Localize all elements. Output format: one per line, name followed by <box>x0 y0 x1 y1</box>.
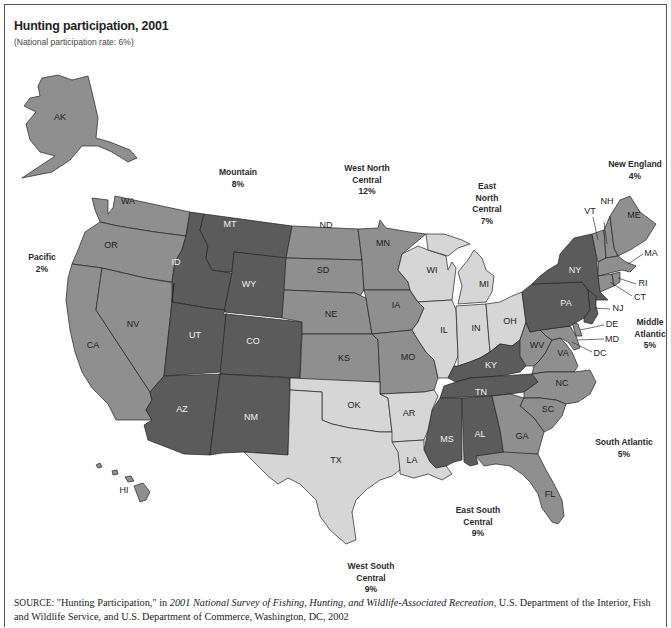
state-CO <box>220 314 302 378</box>
label-ME: ME <box>627 210 641 220</box>
region-name: South Atlantic <box>588 436 660 448</box>
region-rate: 12% <box>336 185 399 197</box>
region-rate: 5% <box>630 339 670 351</box>
region-rate: 9% <box>340 583 403 595</box>
label-WI: WI <box>427 265 438 275</box>
label-KY: KY <box>485 360 497 370</box>
region-name: Central <box>336 174 399 186</box>
state-AK <box>22 75 137 178</box>
source-prefix: SOURCE: <box>14 598 54 608</box>
state-ME <box>610 196 656 256</box>
label-ND: ND <box>320 220 333 230</box>
label-PA: PA <box>560 298 571 308</box>
us-map: AK HI WA OR CA NV ID MT WY UT CO AZ NM N… <box>0 0 671 628</box>
source-publication: 2001 National Survey of Fishing, Hunting… <box>170 597 497 608</box>
region-west-north-central: West North Central 12% <box>336 162 399 197</box>
region-pacific: Pacific 2% <box>22 251 62 274</box>
state-ND <box>286 226 362 260</box>
label-MT: MT <box>224 219 237 229</box>
leader-CT <box>610 282 632 296</box>
source-text: "Hunting Participation," in <box>54 597 170 608</box>
label-FL: FL <box>545 489 556 499</box>
label-NY: NY <box>569 265 582 275</box>
region-rate: 5% <box>588 448 660 460</box>
label-UT: UT <box>189 330 201 340</box>
label-AK: AK <box>54 112 66 122</box>
source-note: SOURCE: "Hunting Participation," in 2001… <box>14 596 659 624</box>
label-OR: OR <box>104 240 118 250</box>
region-name: West South <box>340 560 403 572</box>
region-name: East South <box>447 504 508 516</box>
region-name: Pacific <box>22 251 62 263</box>
region-name: North <box>465 192 510 204</box>
label-IL: IL <box>440 325 448 335</box>
label-DE: DE <box>606 319 619 329</box>
region-name: Mountain <box>213 166 263 178</box>
label-WV: WV <box>530 340 545 350</box>
label-RI: RI <box>639 278 648 288</box>
label-NC: NC <box>556 378 569 388</box>
leader-MD <box>578 339 604 340</box>
label-NH: NH <box>601 196 614 206</box>
label-AL: AL <box>474 429 485 439</box>
label-NM: NM <box>244 412 258 422</box>
label-CA: CA <box>87 340 100 350</box>
region-east-south-central: East South Central 9% <box>447 504 508 539</box>
label-MA: MA <box>644 248 658 258</box>
label-SD: SD <box>317 265 330 275</box>
label-OH: OH <box>503 316 517 326</box>
state-AZ <box>144 374 220 455</box>
label-AR: AR <box>403 408 416 418</box>
label-CO: CO <box>246 336 260 346</box>
leader-RI <box>618 278 636 284</box>
region-south-atlantic: South Atlantic 5% <box>588 436 660 459</box>
label-MS: MS <box>440 434 454 444</box>
label-MD: MD <box>605 334 619 344</box>
leader-DE <box>580 325 604 330</box>
label-HI: HI <box>120 485 129 495</box>
label-LA: LA <box>406 455 417 465</box>
label-NJ: NJ <box>613 303 624 313</box>
label-AZ: AZ <box>176 404 188 414</box>
label-TN: TN <box>475 387 487 397</box>
region-name: Atlantic <box>630 328 670 340</box>
label-NE: NE <box>325 309 338 319</box>
state-PA <box>522 282 590 332</box>
region-rate: 8% <box>213 178 263 190</box>
region-name: New England <box>604 158 667 170</box>
region-rate: 2% <box>22 263 62 275</box>
label-TX: TX <box>330 455 342 465</box>
state-HI <box>96 463 150 502</box>
region-name: Central <box>465 203 510 215</box>
region-name: Middle <box>630 316 670 328</box>
label-ID: ID <box>172 257 182 267</box>
region-name: Central <box>340 572 403 584</box>
region-east-north-central: East North Central 7% <box>465 180 510 226</box>
label-MI: MI <box>479 279 489 289</box>
label-GA: GA <box>515 431 528 441</box>
label-WY: WY <box>242 279 257 289</box>
region-middle-atlantic: Middle Atlantic 5% <box>630 316 670 351</box>
label-VT: VT <box>584 206 596 216</box>
label-MN: MN <box>376 238 390 248</box>
region-name: West North <box>336 162 399 174</box>
label-SC: SC <box>542 404 555 414</box>
label-IN: IN <box>472 323 481 333</box>
leader-MA <box>628 254 643 264</box>
label-IA: IA <box>392 300 401 310</box>
label-MO: MO <box>401 352 416 362</box>
label-OK: OK <box>347 400 360 410</box>
region-name: Central <box>447 516 508 528</box>
region-new-england: New England 4% <box>604 158 667 181</box>
label-VA: VA <box>557 348 568 358</box>
region-rate: 9% <box>447 527 508 539</box>
label-KS: KS <box>338 353 350 363</box>
label-CT: CT <box>634 292 646 302</box>
region-mountain: Mountain 8% <box>213 166 263 189</box>
label-NV: NV <box>127 319 140 329</box>
label-DC: DC <box>594 348 607 358</box>
label-WA: WA <box>121 196 135 206</box>
region-rate: 4% <box>604 170 667 182</box>
region-rate: 7% <box>465 215 510 227</box>
region-west-south-central: West South Central 9% <box>340 560 403 595</box>
